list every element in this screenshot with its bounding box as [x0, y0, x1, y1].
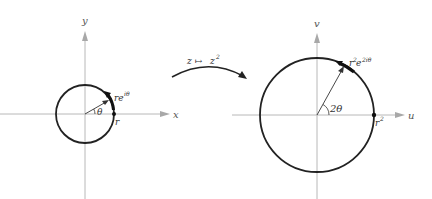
z-plane — [0, 31, 170, 199]
y-axis-arrowhead-icon — [82, 31, 88, 41]
radius-r-label: r — [115, 117, 120, 127]
point-label-exponent: iθ — [124, 90, 130, 97]
mapping-arrowhead-icon — [238, 71, 247, 79]
ray-re-itheta — [85, 102, 106, 114]
angle-2theta-arc — [323, 105, 329, 116]
mapping-z-label: z — [186, 56, 192, 66]
ray-arrowhead-icon — [102, 100, 109, 105]
point-r — [112, 112, 116, 116]
diagram-canvas: y x re iθ θ r z ↦ z 2 v u r 2 e 2iθ 2θ — [0, 0, 432, 199]
mapping-arrow — [172, 67, 247, 79]
mapping-arc — [172, 67, 243, 77]
u-axis-label: u — [408, 110, 414, 121]
mapping-exponent-label: 2 — [215, 53, 220, 60]
mapping-maps-to-icon: ↦ — [195, 56, 203, 66]
u-axis-arrowhead-icon — [395, 112, 405, 118]
point-label-re: re — [114, 93, 124, 103]
point-r-squared — [372, 113, 376, 117]
point-label-e-exponent: 2iθ — [361, 56, 372, 63]
point-label-e: e — [356, 58, 361, 68]
v-axis-arrowhead-icon — [314, 33, 320, 43]
v-axis-label: v — [314, 18, 320, 29]
radius-r2-exponent: 2 — [379, 115, 384, 122]
circle-direction-segment — [108, 95, 114, 110]
x-axis-arrowhead-icon — [160, 111, 170, 117]
angle-theta-arc — [94, 109, 95, 114]
angle-theta-label: θ — [97, 107, 103, 117]
ray-arrowhead-icon — [338, 66, 344, 73]
x-axis-label: x — [173, 109, 179, 120]
mapping-z-squared-label: z — [209, 56, 215, 66]
angle-2theta-label: 2θ — [329, 103, 342, 114]
y-axis-label: y — [81, 15, 88, 26]
